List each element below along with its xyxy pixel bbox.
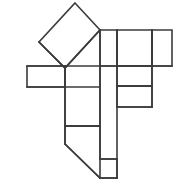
net-diagram: [0, 0, 187, 195]
top-right-square-c-face: [152, 30, 172, 66]
segment-diamond-lower-left-edge: [39, 42, 65, 68]
segment-tail-diagonal: [65, 144, 100, 178]
segment-diamond-lower-right-edge: [65, 30, 100, 68]
rotated-square-face: [39, 3, 100, 68]
mid-right-square-lower-face: [117, 86, 152, 107]
top-right-square-a-face: [100, 30, 117, 66]
figure-canvas: [0, 0, 187, 195]
top-right-square-b-face: [117, 30, 152, 66]
left-wing-square-face: [27, 66, 65, 87]
mid-right-square-upper-face: [117, 66, 152, 86]
center-square-face: [65, 66, 100, 126]
